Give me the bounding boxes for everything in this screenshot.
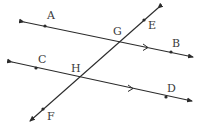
label-g: G bbox=[113, 25, 122, 38]
label-h: H bbox=[71, 62, 81, 75]
point-c bbox=[34, 66, 37, 69]
point-a bbox=[43, 24, 46, 27]
label-b: B bbox=[172, 37, 180, 50]
label-f: F bbox=[47, 110, 55, 123]
label-a: A bbox=[46, 9, 56, 22]
parallel-lines-diagram: A B C D E F G H bbox=[0, 0, 206, 126]
point-e bbox=[142, 18, 145, 21]
parallel-mark-cd-icon bbox=[128, 85, 133, 92]
line-cd bbox=[12, 62, 192, 101]
point-f bbox=[41, 107, 44, 110]
diagram-svg: A B C D E F G H bbox=[0, 0, 206, 126]
label-c: C bbox=[38, 53, 46, 66]
point-b bbox=[169, 50, 172, 53]
label-e: E bbox=[148, 19, 156, 32]
label-d: D bbox=[167, 82, 176, 95]
point-d bbox=[164, 95, 167, 98]
transversal-ef bbox=[30, 8, 158, 121]
